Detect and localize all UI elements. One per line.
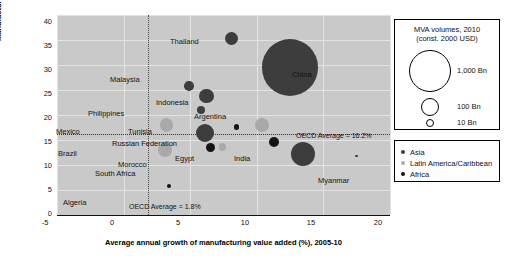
point-label-morocco: Morocco [118, 161, 147, 169]
bubble-myanmar [355, 155, 358, 158]
bubble-russian-federation [196, 124, 214, 142]
size-legend-circle [409, 50, 451, 92]
y-tick-label: 25 [30, 89, 52, 98]
bubble-argentina [255, 118, 269, 132]
y-tick-label: 15 [30, 137, 52, 146]
y-tick-label: 10 [30, 161, 52, 170]
bubble-morocco [219, 143, 226, 150]
gridline-horizontal [57, 165, 390, 166]
size-legend-label: 10 Bn [457, 118, 477, 127]
x-tick-label: -5 [33, 218, 57, 227]
bubble-tunisia [234, 124, 239, 129]
gridline-horizontal [57, 65, 390, 66]
size-legend-circle [421, 98, 439, 116]
x-tick-label: 0 [100, 218, 124, 227]
y-tick-label: 35 [30, 41, 52, 50]
bubble-mexico [160, 118, 173, 131]
y-tick-label: 40 [30, 17, 52, 26]
point-label-malaysia: Malaysia [110, 76, 140, 84]
gridline-horizontal [57, 15, 390, 16]
point-label-egypt: Egypt [175, 155, 194, 163]
category-legend-dot [401, 161, 405, 165]
size-legend-circle [426, 119, 434, 127]
point-label-indonesia: Indonesia [156, 99, 189, 107]
bubble-chart-figure: Manufacturing value added (% GDP), 2010 … [0, 0, 509, 263]
x-tick-label: 5 [166, 218, 190, 227]
reference-line-vertical [148, 15, 149, 215]
point-label-myanmar: Myanmar [318, 177, 349, 185]
point-label-mexico: Mexico [56, 128, 80, 136]
point-label-india: India [234, 155, 250, 163]
gridline-horizontal [57, 40, 390, 41]
gridline-horizontal [57, 90, 390, 91]
gridline-vertical [390, 15, 391, 215]
point-label-south-africa: South Africa [95, 170, 135, 178]
bubble-egypt [269, 137, 280, 148]
point-label-russian-federation: Russian Federation [112, 140, 177, 148]
size-legend-label: 100 Bn [457, 102, 481, 111]
x-tick-label: 15 [299, 218, 323, 227]
x-axis-line [57, 215, 390, 216]
point-label-argentina: Argentina [194, 113, 226, 121]
oecd-average-share-note: OECD Average = 16.2% [296, 132, 372, 139]
gridline-vertical [323, 15, 324, 215]
x-axis-title: Average annual growth of manufacturing v… [57, 238, 390, 247]
point-label-philippines: Philippines [88, 110, 124, 118]
point-label-brazil: Brazil [58, 150, 77, 158]
category-legend-label: Latin America/Caribbean [410, 159, 492, 168]
gridline-horizontal [57, 140, 390, 141]
size-legend-label: 1,000 Bn [457, 66, 487, 75]
bubble-india [291, 142, 315, 166]
point-label-tunisia: Tunisia [128, 128, 152, 136]
bubble-south-africa [206, 143, 215, 152]
oecd-average-growth-note: OECD Average = 1.8% [129, 203, 201, 210]
point-label-china: China [292, 71, 312, 79]
bubble-china [262, 39, 318, 95]
x-tick-label: 20 [366, 218, 390, 227]
bubble-malaysia [184, 81, 194, 91]
gridline-vertical [257, 15, 258, 215]
x-tick-label: 10 [233, 218, 257, 227]
category-legend-dot [401, 150, 405, 154]
point-label-algeria: Algeria [63, 199, 86, 207]
y-tick-label: 20 [30, 113, 52, 122]
y-tick-label: 5 [30, 185, 52, 194]
bubble-algeria [167, 184, 171, 188]
gridline-horizontal [57, 190, 390, 191]
plot-area: ChinaThailandMalaysiaIndonesiaPhilippine… [57, 15, 390, 215]
category-legend: AsiaLatin America/CaribbeanAfrica [394, 140, 500, 182]
size-legend-title-line2: (const. 2000 USD) [395, 34, 499, 43]
point-label-thailand: Thailand [170, 38, 199, 46]
y-tick-label: 0 [30, 209, 52, 218]
category-legend-dot [401, 172, 405, 176]
size-legend-title-line1: MVA volumes, 2010 [395, 25, 499, 34]
gridline-vertical [57, 15, 58, 215]
bubble-thailand [225, 32, 238, 45]
y-axis-title: Manufacturing value added (% GDP), 2010 [0, 0, 3, 46]
category-legend-label: Asia [410, 148, 425, 157]
y-tick-label: 30 [30, 65, 52, 74]
bubble-indonesia [199, 89, 214, 104]
size-legend: MVA volumes, 2010 (const. 2000 USD) 1,00… [394, 19, 500, 130]
category-legend-label: Africa [410, 170, 429, 179]
